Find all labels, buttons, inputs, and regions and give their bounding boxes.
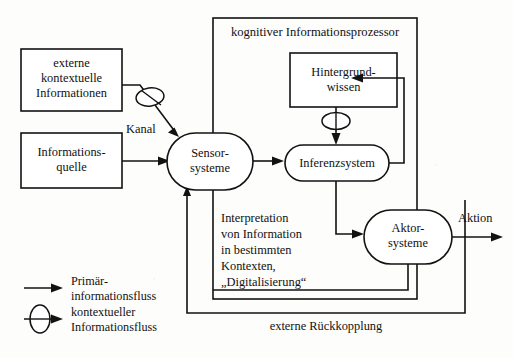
contextual-flow-arrowhead-background-to-inference <box>332 133 341 145</box>
hintergrundwissen-line-2: wissen <box>327 80 361 94</box>
annotation-line-2: von Information <box>221 227 302 241</box>
contextual-flow-arrowhead <box>168 128 179 138</box>
externe-kontextuelle-informationen-line-1: externe <box>53 56 90 70</box>
aktorsysteme-line-2: systeme <box>388 236 428 250</box>
primary-flow-arrowhead-sensor-to-inference <box>272 157 284 166</box>
kanal-label: Kanal <box>126 122 156 136</box>
legend-item-2-line-2: Informationsfluss <box>71 320 157 334</box>
externe-kontextuelle-informationen-line-3: Informationen <box>36 86 107 100</box>
cognitive-processor-frame-label: kognitiver Informationsprozessor <box>231 25 400 39</box>
legend-ellipse-arrowhead <box>51 315 63 324</box>
inference-to-actor-arrowhead <box>352 230 364 239</box>
aktion-label: Aktion <box>458 211 492 225</box>
annotation-line-4: Kontexten, <box>221 259 276 273</box>
annotation-line-3: in bestimmten <box>221 243 292 257</box>
annotation-line-1: Interpretation <box>221 211 288 225</box>
externe-kontextuelle-informationen-line-2: kontextuelle <box>41 71 103 85</box>
diagram-page: kognitiver Informationsprozessor externe… <box>0 0 513 358</box>
aktion-output-arrowhead <box>491 233 503 242</box>
inference-to-actor-path <box>336 181 359 234</box>
legend-item-2-line-1: kontextueller <box>71 305 135 319</box>
annotation-line-5: „Digitalisierung“ <box>221 275 306 289</box>
externe-rueckkopplung-label: externe Rückkopplung <box>270 319 383 333</box>
hintergrundwissen-line-1: Hintergrund- <box>311 65 375 79</box>
legend-item-1-line-1: Primär- <box>71 274 108 288</box>
informationsquelle-line-2: quelle <box>56 160 87 174</box>
cognitive-information-processor-diagram: kognitiver Informationsprozessor externe… <box>0 0 513 358</box>
sensorsysteme-line-2: systeme <box>190 161 230 175</box>
legend-plain-arrow-icon <box>51 284 63 293</box>
legend-item-1-line-2: informationsfluss <box>71 289 157 303</box>
inferenzsystem-label: Inferenzsystem <box>299 156 375 170</box>
aktorsysteme-line-1: Aktor- <box>392 221 425 235</box>
informationsquelle-line-1: Informations- <box>37 145 105 159</box>
sensorsysteme-line-1: Sensor- <box>191 146 229 160</box>
